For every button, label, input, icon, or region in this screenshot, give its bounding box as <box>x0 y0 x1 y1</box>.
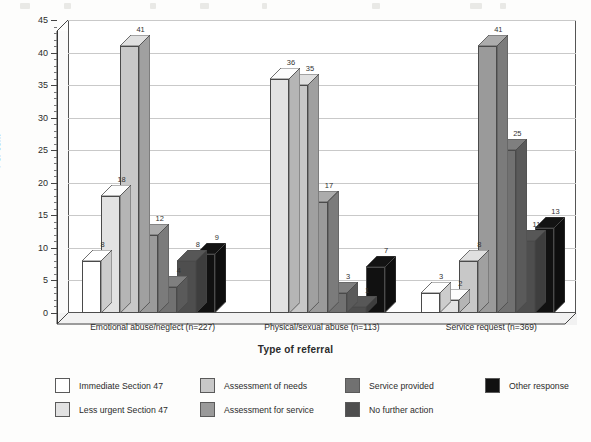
bar-value-label: 3 <box>432 272 451 281</box>
y-axis-minor-tick <box>54 254 57 255</box>
y-axis-major-tick <box>51 183 57 184</box>
x-axis-category-label: Physical/sexual abuse (n=113) <box>237 322 406 332</box>
bar-side-face <box>308 74 319 313</box>
plot-area: 818411248936351731732841251113 <box>68 20 576 313</box>
legend-label: Assessment for service <box>224 405 314 415</box>
y-axis-title: Per cent <box>0 134 2 168</box>
bar-side-face <box>328 191 339 313</box>
bar-value-label: 9 <box>207 233 226 242</box>
y-axis-minor-tick <box>54 222 57 223</box>
bar-value-label: 17 <box>319 181 338 190</box>
y-axis-major-tick <box>51 85 57 86</box>
y-axis-minor-tick <box>54 202 57 203</box>
bar-side-face <box>535 230 546 313</box>
y-axis-minor-tick <box>54 228 57 229</box>
y-axis-major-tick <box>51 280 57 281</box>
y-axis-minor-tick <box>54 33 57 34</box>
y-axis-minor-tick <box>54 235 57 236</box>
y-axis-minor-tick <box>54 59 57 60</box>
bar-side-face <box>385 256 396 313</box>
bar-side-face <box>158 224 169 313</box>
y-axis-minor-tick <box>54 131 57 132</box>
bar-value-label: 13 <box>546 207 565 216</box>
legend-label: Assessment of needs <box>224 381 307 391</box>
bar-front-face <box>421 293 440 313</box>
y-axis-minor-tick <box>54 287 57 288</box>
y-axis-minor-tick <box>54 157 57 158</box>
bar <box>270 79 289 313</box>
bar <box>82 261 101 313</box>
bar-side-face <box>440 282 451 313</box>
bar <box>421 293 440 313</box>
bar-value-label: 25 <box>508 129 527 138</box>
legend-swatch <box>55 378 70 393</box>
y-axis-minor-tick <box>54 105 57 106</box>
bar-side-face <box>516 139 527 313</box>
bar-value-label: 3 <box>339 272 358 281</box>
bar-value-label: 36 <box>281 58 300 67</box>
y-axis-tick-label: 20 <box>38 178 48 188</box>
legend-item: Service provided <box>345 378 434 393</box>
legend-item: Immediate Section 47 <box>55 378 163 393</box>
y-axis-major-tick <box>51 150 57 151</box>
bar-side-face <box>139 35 150 313</box>
legend-swatch <box>345 378 360 393</box>
bar-side-face <box>366 296 377 314</box>
legend-label: No further action <box>369 405 433 415</box>
y-axis-minor-tick <box>54 163 57 164</box>
legend-swatch <box>200 402 215 417</box>
legend-swatch <box>485 378 500 393</box>
bar-value-label: 35 <box>300 64 319 73</box>
bar-value-label: 1 <box>358 286 377 295</box>
x-axis-category-label: Service request (n=369) <box>407 322 576 332</box>
y-axis-minor-tick <box>54 137 57 138</box>
y-axis-minor-tick <box>54 196 57 197</box>
legend-item: Less urgent Section 47 <box>55 402 168 417</box>
bar-value-label: 11 <box>527 220 546 229</box>
y-axis-tick-label: 40 <box>38 48 48 58</box>
bar-value-label: 2 <box>451 279 470 288</box>
y-axis-minor-tick <box>54 293 57 294</box>
y-axis-tick-label: 5 <box>43 275 48 285</box>
y-axis-tick-label: 10 <box>38 243 48 253</box>
y-axis-ticks: 051015202530354045 <box>0 0 57 442</box>
bar-value-label: 41 <box>489 25 508 34</box>
bar-value-label: 8 <box>93 240 112 249</box>
y-axis-minor-tick <box>54 274 57 275</box>
y-axis-minor-tick <box>54 300 57 301</box>
bar-side-face <box>289 68 300 313</box>
legend-item: Other response <box>485 378 569 393</box>
bar-side-face <box>177 276 188 313</box>
gridline <box>68 20 576 21</box>
legend-row-2: Less urgent Section 47Assessment for ser… <box>55 402 575 426</box>
y-axis-minor-tick <box>54 189 57 190</box>
legend-label: Service provided <box>369 381 434 391</box>
y-axis-minor-tick <box>54 124 57 125</box>
y-axis-minor-tick <box>54 306 57 307</box>
bar-side-face <box>196 250 207 313</box>
y-axis-major-tick <box>51 53 57 54</box>
y-axis-minor-tick <box>54 66 57 67</box>
bar-side-face <box>478 250 489 313</box>
bar-side-face <box>459 289 470 313</box>
legend-label: Less urgent Section 47 <box>79 405 168 415</box>
legend-swatch <box>55 402 70 417</box>
y-axis-minor-tick <box>54 111 57 112</box>
y-axis-minor-tick <box>54 79 57 80</box>
y-axis-major-tick <box>51 248 57 249</box>
bar-side-face <box>120 185 131 313</box>
legend-row-1: Immediate Section 47Assessment of needsS… <box>55 378 575 402</box>
y-axis-tick-label: 25 <box>38 145 48 155</box>
y-axis-major-tick <box>51 20 57 21</box>
bar-front-face <box>270 79 289 313</box>
y-axis-tick-label: 35 <box>38 80 48 90</box>
bar-value-label: 8 <box>188 240 207 249</box>
y-axis-tick-label: 45 <box>38 15 48 25</box>
y-axis-tick-label: 0 <box>43 308 48 318</box>
bar <box>251 313 270 314</box>
bar-value-label: 4 <box>169 266 188 275</box>
legend-item: Assessment for service <box>200 402 314 417</box>
bar-value-label: 7 <box>377 246 396 255</box>
bar-front-face <box>82 261 101 313</box>
y-axis-minor-tick <box>54 241 57 242</box>
